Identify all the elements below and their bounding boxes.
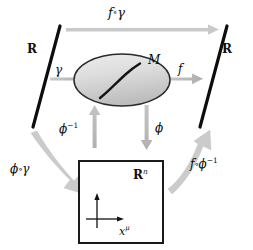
label-mu-exponent: μ bbox=[125, 224, 129, 232]
label-real-line-right: R bbox=[222, 43, 232, 55]
label-phi-exponent: −1 bbox=[67, 121, 78, 130]
label-phi-compose-gamma: ϕ∘γ bbox=[10, 163, 29, 175]
label-f-compose-gamma: f∘γ bbox=[108, 6, 125, 19]
arrow-phi-inverse bbox=[89, 105, 101, 148]
label-phi-inverse: ϕ−1 bbox=[59, 122, 78, 135]
label-coordinate-space: Rn bbox=[133, 168, 148, 181]
label-phi: ϕ bbox=[155, 122, 163, 134]
label-real-line-left: R bbox=[27, 43, 37, 55]
arrow-f-compose-gamma bbox=[66, 25, 219, 35]
label-phi-base: ϕ bbox=[59, 122, 67, 136]
commutative-diagram-canvas bbox=[0, 0, 253, 250]
label-phi-part: ϕ bbox=[10, 162, 18, 176]
arrow-phi bbox=[141, 105, 153, 150]
label-axis-x-mu: xμ bbox=[119, 225, 130, 237]
label-gamma-part: γ bbox=[117, 5, 125, 20]
label-Rn-exponent: n bbox=[143, 167, 148, 176]
arrow-f bbox=[166, 74, 203, 85]
label-gamma: γ bbox=[55, 64, 62, 76]
arrow-phi-compose-gamma bbox=[31, 131, 84, 194]
label-phi-part: ϕ bbox=[199, 157, 207, 171]
label-gamma-part: γ bbox=[22, 162, 29, 176]
label-phi-exponent: −1 bbox=[207, 156, 218, 165]
label-Rn-base: R bbox=[133, 168, 143, 182]
label-f: f bbox=[178, 63, 182, 75]
label-manifold-M: M bbox=[148, 54, 160, 66]
label-f-compose-phi-inverse: f∘ϕ−1 bbox=[190, 157, 218, 170]
